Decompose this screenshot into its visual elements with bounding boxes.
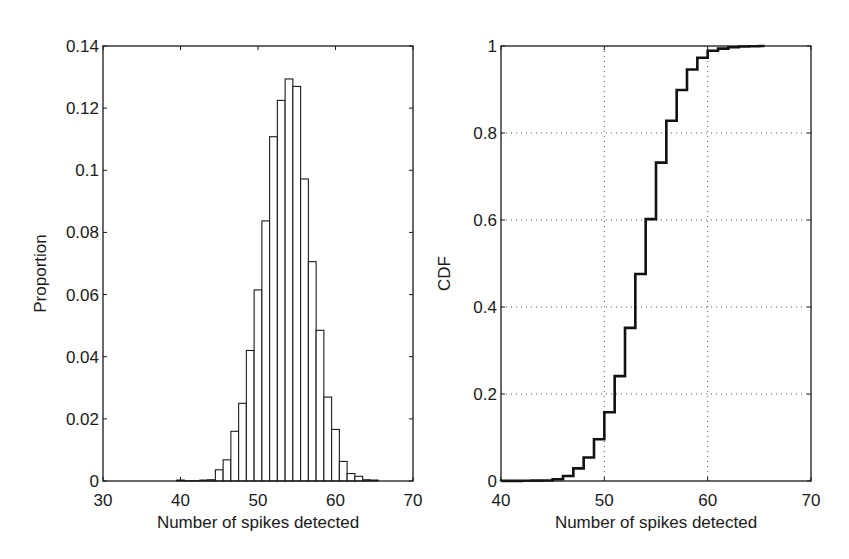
histogram-bar	[223, 460, 231, 481]
y-tick-label: 0.8	[473, 124, 497, 143]
y-axis-label: Proportion	[31, 234, 50, 312]
y-tick-label: 0.14	[66, 37, 99, 56]
y-tick-label: 0.06	[66, 286, 99, 305]
y-tick-label: 0.1	[75, 161, 99, 180]
y-tick-label: 0.12	[66, 99, 99, 118]
histogram-bar	[262, 221, 270, 481]
figure: 304050607000.020.040.060.080.10.120.14Nu…	[0, 0, 849, 559]
histogram-bars	[177, 79, 379, 481]
x-tick-label: 50	[595, 491, 614, 510]
histogram-bar	[270, 137, 278, 481]
x-axis-label: Number of spikes detected	[157, 513, 359, 532]
histogram-bar	[316, 330, 324, 481]
y-tick-label: 0	[90, 472, 99, 491]
y-tick-label: 0.6	[473, 211, 497, 230]
histogram-bar	[246, 351, 254, 482]
x-tick-label: 60	[698, 491, 717, 510]
y-tick-label: 0.04	[66, 348, 99, 367]
x-tick-label: 60	[326, 491, 345, 510]
histogram-bar	[308, 262, 316, 481]
axes-frame	[501, 46, 811, 481]
histogram-bar	[332, 429, 340, 481]
histogram-bar	[277, 100, 285, 481]
y-axis-label: CDF	[435, 256, 454, 291]
y-tick-label: 0.4	[473, 298, 497, 317]
histogram-bar	[355, 476, 363, 481]
y-tick-label: 0	[488, 472, 497, 491]
x-tick-label: 70	[802, 491, 821, 510]
x-tick-label: 70	[404, 491, 423, 510]
x-axis-label: Number of spikes detected	[555, 513, 757, 532]
x-tick-label: 40	[492, 491, 511, 510]
x-tick-label: 30	[94, 491, 113, 510]
histogram-bar	[215, 470, 223, 481]
x-tick-label: 50	[249, 491, 268, 510]
histogram-panel: 304050607000.020.040.060.080.10.120.14Nu…	[31, 37, 422, 532]
histogram-bar	[339, 461, 347, 481]
x-tick-label: 40	[171, 491, 190, 510]
y-tick-label: 0.2	[473, 385, 497, 404]
histogram-bar	[293, 86, 301, 481]
histogram-bar	[254, 290, 262, 481]
cdf-step-line	[501, 46, 765, 481]
histogram-bar	[301, 179, 309, 481]
y-tick-label: 0.08	[66, 223, 99, 242]
histogram-bar	[285, 79, 293, 481]
histogram-bar	[347, 474, 355, 481]
histogram-bar	[239, 403, 247, 481]
y-tick-label: 1	[488, 37, 497, 56]
histogram-bar	[324, 397, 332, 481]
cdf-panel: 4050607000.20.40.60.81Number of spikes d…	[435, 37, 820, 532]
histogram-bar	[231, 431, 239, 481]
y-tick-label: 0.02	[66, 410, 99, 429]
figure-canvas: 304050607000.020.040.060.080.10.120.14Nu…	[0, 0, 849, 559]
